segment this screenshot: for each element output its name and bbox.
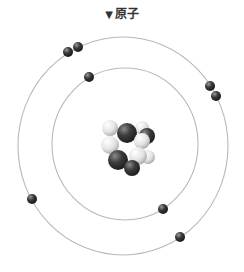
electron bbox=[211, 91, 221, 101]
electron bbox=[73, 42, 83, 52]
neutron-particle bbox=[102, 120, 118, 136]
electron bbox=[84, 72, 94, 82]
proton-particle bbox=[117, 123, 137, 143]
electron bbox=[158, 204, 168, 214]
nucleus bbox=[101, 120, 155, 176]
orbits bbox=[18, 37, 228, 255]
electron bbox=[205, 81, 215, 91]
electron bbox=[175, 232, 185, 242]
neutron-particle bbox=[134, 133, 150, 149]
atom-diagram bbox=[0, 0, 244, 272]
electron bbox=[63, 47, 73, 57]
proton-particle bbox=[124, 160, 140, 176]
inner-shell-orbit bbox=[52, 68, 198, 220]
outer-shell-orbit bbox=[18, 37, 228, 255]
electron bbox=[27, 194, 37, 204]
